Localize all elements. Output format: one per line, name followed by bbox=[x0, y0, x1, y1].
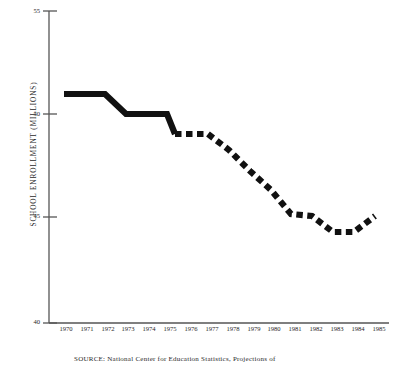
x-tick-label-1973: 1973 bbox=[118, 325, 138, 332]
x-tick-label-1971: 1971 bbox=[77, 325, 97, 332]
x-tick-label-1984: 1984 bbox=[348, 325, 368, 332]
x-tick-label-1981: 1981 bbox=[285, 325, 305, 332]
series-actual-line bbox=[64, 94, 175, 134]
x-tick-label-1978: 1978 bbox=[223, 325, 243, 332]
x-tick-label-1976: 1976 bbox=[181, 325, 201, 332]
y-tick-label-45: 45 bbox=[24, 212, 40, 219]
series-projected-line bbox=[175, 134, 375, 232]
x-tick-label-1982: 1982 bbox=[306, 325, 326, 332]
source-note: SOURCE: National Center for Education St… bbox=[74, 355, 275, 363]
y-tick-label-55: 55 bbox=[24, 7, 40, 14]
x-tick-label-1974: 1974 bbox=[139, 325, 159, 332]
x-tick-label-1972: 1972 bbox=[98, 325, 118, 332]
x-tick-label-1977: 1977 bbox=[202, 325, 222, 332]
x-tick-label-1979: 1979 bbox=[244, 325, 264, 332]
x-tick-label-1975: 1975 bbox=[160, 325, 180, 332]
y-axis-title: SCHOOL ENROLLMENT (MILLIONS) bbox=[30, 54, 38, 254]
x-tick-label-1980: 1980 bbox=[264, 325, 284, 332]
x-tick-label-1985: 1985 bbox=[369, 325, 389, 332]
y-tick-label-50: 50 bbox=[24, 110, 40, 117]
y-tick-label-40: 40 bbox=[24, 318, 40, 325]
chart-plot-area bbox=[0, 0, 399, 366]
enrollment-line-chart: SCHOOL ENROLLMENT (MILLIONS) 55 50 45 40… bbox=[0, 0, 399, 366]
x-tick-label-1970: 1970 bbox=[56, 325, 76, 332]
x-tick-label-1983: 1983 bbox=[327, 325, 347, 332]
